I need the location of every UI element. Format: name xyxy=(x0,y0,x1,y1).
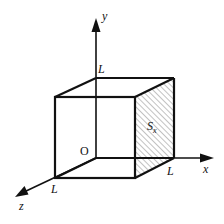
cube-front-face xyxy=(55,97,135,178)
origin-label: O xyxy=(80,144,89,158)
cube-diagram: y x z L L L O Sx xyxy=(0,0,224,224)
z-arrow-icon xyxy=(15,186,29,197)
diagram-svg: y x z L L L O Sx xyxy=(0,0,224,224)
z-axis-label: z xyxy=(18,199,24,213)
z-edge-length-label: L xyxy=(50,182,58,196)
y-axis xyxy=(92,18,101,158)
shaded-face-label-subscript: x xyxy=(152,126,157,135)
x-axis-label: x xyxy=(202,162,209,176)
y-axis-label: y xyxy=(101,9,108,23)
y-edge-length-label: L xyxy=(97,62,105,76)
x-edge-length-label: L xyxy=(166,164,174,178)
y-arrow-icon xyxy=(92,18,101,32)
